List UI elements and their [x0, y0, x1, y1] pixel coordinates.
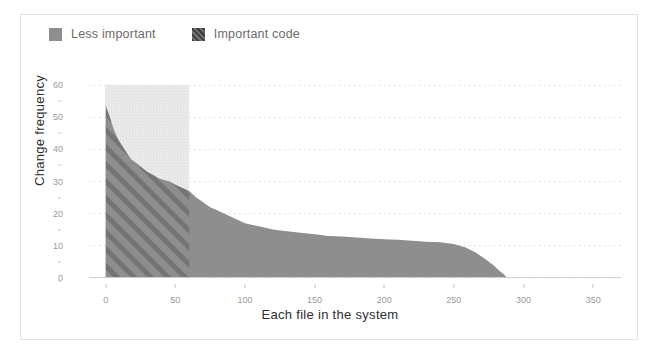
x-tick-mark	[175, 284, 176, 288]
x-tick-label: 300	[509, 295, 539, 305]
x-tick-label: 150	[300, 295, 330, 305]
x-tick-mark	[314, 284, 315, 288]
x-tick-mark	[384, 284, 385, 288]
y-minor-tick	[58, 133, 61, 134]
y-minor-tick	[58, 280, 61, 281]
x-axis-label: Each file in the system	[21, 307, 639, 322]
x-tick-label: 350	[578, 295, 608, 305]
y-minor-tick	[58, 101, 61, 102]
x-tick-label: 250	[439, 295, 469, 305]
x-tick-mark	[105, 284, 106, 288]
y-minor-tick	[58, 165, 61, 166]
x-tick-label: 100	[230, 295, 260, 305]
y-minor-tick	[58, 261, 61, 262]
x-tick-label: 50	[160, 295, 190, 305]
y-tick-label: 20	[41, 209, 63, 219]
x-tick-mark	[453, 284, 454, 288]
x-tick-mark	[244, 284, 245, 288]
y-tick-label: 30	[41, 177, 63, 187]
y-minor-tick	[58, 229, 61, 230]
y-tick-label: 40	[41, 144, 63, 154]
x-tick-label: 200	[369, 295, 399, 305]
x-tick-mark	[593, 284, 594, 288]
plot-area: Change frequency Each file in the system…	[21, 15, 639, 341]
y-tick-label: 50	[41, 112, 63, 122]
y-tick-label: 10	[41, 241, 63, 251]
x-tick-label: 0	[91, 295, 121, 305]
x-tick-mark	[523, 284, 524, 288]
chart-figure: Less important Important code Change fre…	[20, 14, 638, 340]
y-tick-label: 60	[41, 80, 63, 90]
x-axis-ticks: 050100150200250300350	[21, 283, 639, 303]
y-minor-tick	[58, 197, 61, 198]
